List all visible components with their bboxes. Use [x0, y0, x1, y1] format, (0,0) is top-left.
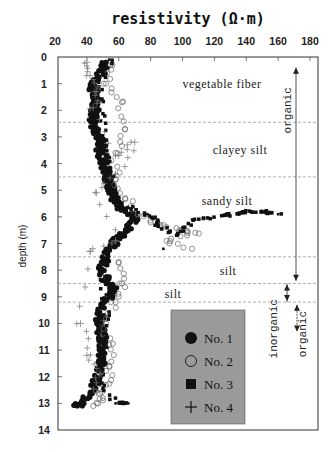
x-tick-label: 100 — [174, 35, 192, 47]
x-tick-label: 140 — [237, 35, 255, 47]
y-tick-label: 2 — [41, 104, 47, 116]
y-tick-label: 7 — [41, 238, 47, 250]
x-tick-label: 40 — [81, 35, 93, 47]
x-tick-label: 60 — [113, 35, 125, 47]
y-tick-label: 12 — [38, 371, 50, 383]
y-tick-label: 8 — [41, 264, 47, 276]
resistivity-depth-chart: resistivity (Ω·m) 2040608010012014016018… — [0, 0, 333, 452]
inorganic-label: inorganic — [268, 299, 280, 358]
x-tick-label: 20 — [49, 35, 61, 47]
organic-label-lower: organic — [297, 311, 309, 357]
y-tick-label: 14 — [38, 424, 50, 436]
x-tick-label: 160 — [269, 35, 287, 47]
legend-label: No. 3 — [204, 377, 233, 392]
legend-label: No. 2 — [204, 354, 233, 369]
y-tick-label: 10 — [38, 317, 50, 329]
y-tick-label: 6 — [41, 211, 47, 223]
legend-item: No. 1 — [185, 331, 233, 346]
chart-title: resistivity (Ω·m) — [111, 10, 265, 28]
y-tick-label: 11 — [38, 344, 49, 356]
layer-label: silt — [220, 264, 237, 278]
filled-circle-icon — [185, 332, 197, 344]
legend-label: No. 1 — [204, 331, 233, 346]
y-tick-label: 13 — [38, 397, 50, 409]
x-tick-label: 120 — [206, 35, 224, 47]
layer-label: sandy silt — [202, 194, 253, 208]
y-axis-label: depth (m) — [17, 225, 28, 268]
y-tick-label: 0 — [41, 51, 47, 63]
layer-labels: vegetable fiberclayey siltsandy siltsilt… — [165, 77, 268, 301]
layer-label: clayey silt — [213, 143, 268, 157]
x-tick-label: 80 — [145, 35, 157, 47]
legend-label: No. 4 — [204, 400, 233, 415]
legend: No. 1No. 2No. 3No. 4 — [171, 310, 245, 424]
layer-label: silt — [165, 287, 182, 301]
y-tick-label: 1 — [41, 78, 47, 90]
y-tick-label: 4 — [41, 158, 47, 170]
filled-square-icon — [186, 379, 196, 389]
y-tick-label: 3 — [41, 131, 47, 143]
x-tick-label: 180 — [301, 35, 319, 47]
y-tick-label: 5 — [41, 184, 47, 196]
organic-label: organic — [282, 87, 294, 133]
layer-label: vegetable fiber — [182, 77, 261, 91]
y-tick-label: 9 — [41, 291, 47, 303]
organic-annotations: organicinorganicorganic — [268, 68, 309, 359]
